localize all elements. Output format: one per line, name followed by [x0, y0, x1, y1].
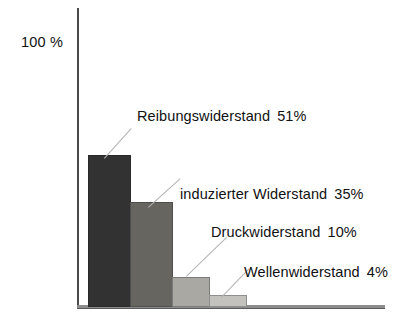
callout-value-text: 4%	[367, 264, 388, 280]
bar-reibungswiderstand	[88, 155, 131, 307]
callout-value-text: 10%	[328, 224, 357, 240]
callout-reibungswiderstand: Reibungswiderstand51%	[137, 108, 307, 124]
leader-line-druckwiderstand	[186, 237, 227, 277]
callout-label-text: Reibungswiderstand	[137, 108, 270, 124]
y-axis-line	[77, 8, 79, 307]
callout-induzierter-widerstand: induzierter Widerstand35%	[180, 186, 364, 202]
callout-value-text: 51%	[277, 108, 306, 124]
callout-label-text: Wellenwiderstand	[244, 264, 360, 280]
callout-label-text: Druckwiderstand	[211, 224, 321, 240]
callout-label-text: induzierter Widerstand	[180, 186, 327, 202]
bar-druckwiderstand	[172, 277, 210, 307]
bar-induzierter-widerstand	[130, 202, 173, 307]
drag-breakdown-bar-chart: 100 % Reibungswiderstand51% induzierter …	[0, 0, 410, 324]
y-axis-max-label: 100 %	[21, 34, 63, 50]
callout-value-text: 35%	[334, 186, 363, 202]
bar-wellenwiderstand	[209, 295, 247, 307]
callout-druckwiderstand: Druckwiderstand10%	[211, 224, 357, 240]
callout-wellenwiderstand: Wellenwiderstand4%	[244, 264, 388, 280]
